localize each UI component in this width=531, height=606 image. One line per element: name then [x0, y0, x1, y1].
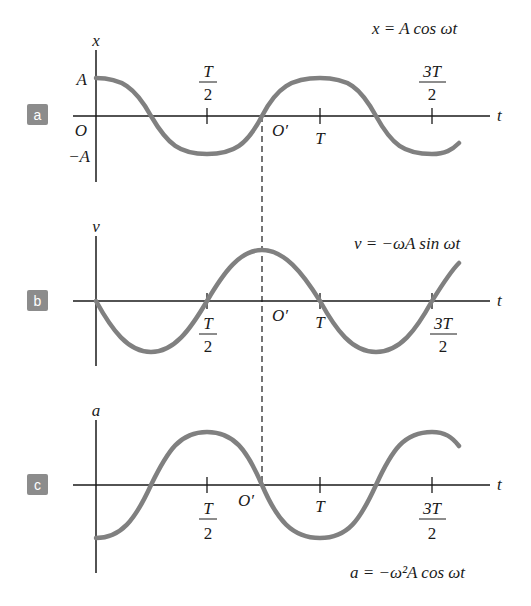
panel-c-tick-half-period-den: 2: [204, 524, 213, 543]
panel-a-tick-half-period-den: 2: [204, 85, 213, 104]
panel-a-tick-half-period-num: T: [203, 62, 214, 81]
panel-a-y-axis-label: x: [91, 31, 100, 50]
panel-c-t-axis-label: t: [497, 475, 503, 494]
panel-b-tick-half-period-num: T: [203, 314, 214, 333]
panel-a-o-prime-label: O′: [272, 121, 288, 140]
panel-b-tick-three-half-period-den: 2: [439, 337, 448, 356]
panel-a-equation: x = A cos ωt: [371, 19, 458, 38]
shm-figure: a x t A O −A O′ T 2 T 3T 2 x = A cos ωt …: [0, 0, 531, 606]
panel-c-tick-three-half-period-den: 2: [428, 524, 437, 543]
panel-b-tick-half-period-den: 2: [204, 337, 213, 356]
panel-a-amplitude-label: A: [76, 70, 88, 89]
panel-b-tick-three-half-period-num: 3T: [433, 314, 454, 333]
panel-a-tick-three-half-period-den: 2: [428, 85, 437, 104]
panel-b: b v t O′ T 2 T 3T 2 v = −ωA sin ωt: [27, 217, 503, 366]
panel-c-equation: a = −ω²A cos ωt: [350, 563, 466, 582]
panel-a-tick-three-half-period-num: 3T: [422, 62, 443, 81]
panel-a-neg-amplitude-label: −A: [68, 147, 90, 166]
panel-c-badge-label: c: [34, 477, 41, 493]
panel-c-tick-half-period-num: T: [203, 499, 214, 518]
panel-a-origin-label: O: [75, 121, 87, 140]
panel-b-t-axis-label: t: [497, 291, 503, 310]
panel-b-tick-period: T: [315, 313, 326, 332]
panel-a-tick-period: T: [315, 129, 326, 148]
panel-c-tick-three-half-period-num: 3T: [422, 499, 443, 518]
panel-b-o-prime-label: O′: [272, 306, 288, 325]
panel-a-badge-label: a: [34, 107, 42, 123]
panel-a: a x t A O −A O′ T 2 T 3T 2 x = A cos ωt: [27, 19, 503, 182]
panel-c: c a t O′ T 2 T 3T 2 a = −ω²A cos ωt: [27, 401, 503, 582]
panel-b-badge-label: b: [34, 293, 42, 309]
panel-b-y-axis-label: v: [92, 217, 100, 236]
panel-a-t-axis-label: t: [497, 106, 503, 125]
panel-c-o-prime-label: O′: [238, 491, 254, 510]
panel-c-tick-period: T: [315, 497, 326, 516]
panel-c-y-axis-label: a: [92, 401, 101, 420]
panel-b-equation: v = −ωA sin ωt: [354, 234, 461, 253]
